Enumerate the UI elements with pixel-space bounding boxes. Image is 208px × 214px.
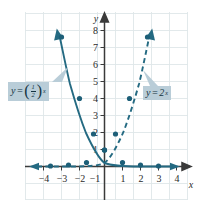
data-point	[66, 162, 71, 167]
curve-label-right-y: y	[146, 88, 150, 98]
data-point	[138, 162, 143, 167]
y-tick-label: 4	[93, 93, 98, 104]
fraction-numerator: 1	[31, 84, 36, 91]
x-tick-label: 2	[139, 173, 144, 184]
y-tick-label: 3	[93, 110, 98, 121]
data-point	[77, 96, 82, 101]
exponential-functions-graph: 8 7 6 5 4 3 2 1 −4 −3 −2 −1 1 2 3 4 x y	[0, 0, 208, 214]
data-point	[127, 96, 132, 101]
curve-label-left-equals: =	[16, 86, 23, 96]
y-tick-label: 5	[93, 76, 98, 87]
y-axis-label: y	[93, 13, 99, 24]
data-point	[145, 34, 150, 39]
x-tick-label: −1	[90, 173, 101, 184]
data-point	[59, 34, 64, 39]
curve-label-right-equals: =	[151, 88, 158, 98]
data-point	[113, 131, 118, 136]
y-tick-label: 7	[93, 42, 98, 53]
data-point	[156, 163, 161, 168]
curve-label-left-y: y	[11, 86, 15, 96]
data-point	[120, 160, 125, 165]
fraction-denominator: 2	[31, 91, 36, 99]
y-tick-label: 8	[93, 25, 98, 36]
x-tick-label: 3	[157, 173, 162, 184]
curve-label-left-fraction: 1 2	[31, 84, 36, 99]
x-tick-label: −2	[75, 173, 86, 184]
curve-label-left-close-paren: )	[37, 85, 42, 98]
data-point	[48, 163, 53, 168]
data-point	[102, 147, 107, 152]
data-point	[91, 131, 96, 136]
y-tick-label: 6	[93, 59, 98, 70]
curve-label-left-open-paren: (	[24, 85, 29, 98]
data-point	[84, 160, 89, 165]
curve-label-half-power-x: y = ( 1 2 ) x	[8, 82, 49, 101]
x-tick-label: −3	[57, 173, 68, 184]
x-tick-label: 1	[121, 173, 126, 184]
x-axis-label: x	[188, 179, 194, 190]
curve-label-two-power-x: y = 2 x	[143, 86, 171, 100]
curve-label-right-base: 2	[159, 88, 164, 98]
x-tick-label: 4	[175, 173, 180, 184]
x-tick-label: −4	[39, 173, 50, 184]
